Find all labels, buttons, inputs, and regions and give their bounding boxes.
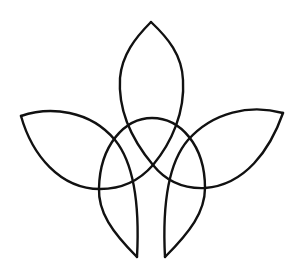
floral-knot-icon — [0, 0, 305, 280]
floral-knot-figure — [0, 0, 305, 280]
